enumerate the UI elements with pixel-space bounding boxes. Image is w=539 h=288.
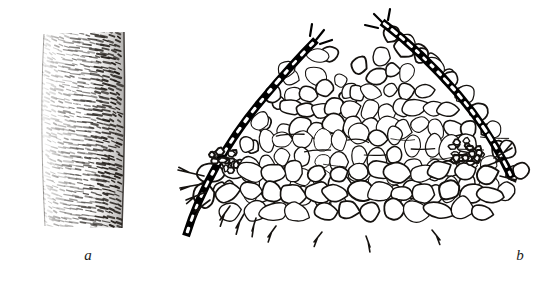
- vessel-thickening-dash: [90, 31, 95, 32]
- vessel-thickening-dash: [91, 228, 96, 229]
- tissue-cell: [404, 135, 420, 157]
- tissue-cell: [339, 201, 360, 218]
- bundle-cell: [466, 146, 473, 151]
- tissue-cell: [439, 180, 459, 199]
- bundle-cell: [474, 155, 480, 162]
- panel-a-label: a: [68, 247, 108, 264]
- vessel-thickening-dash: [101, 229, 108, 231]
- bundle-cell: [228, 151, 236, 157]
- vessel-thickening-dash: [73, 228, 77, 229]
- panel-b-label: b: [500, 247, 539, 264]
- tissue-cell: [384, 83, 398, 96]
- bundle-cell: [469, 151, 475, 157]
- vessel-thickening-dash: [43, 25, 46, 27]
- figure-panel-a: a: [0, 0, 180, 288]
- tissue-cell: [400, 63, 415, 82]
- vessel-thickening-dash: [40, 170, 43, 172]
- vessel-thickening-dash: [65, 27, 72, 28]
- tissue-cell: [349, 163, 368, 180]
- vessel-thickening-dash: [39, 113, 42, 115]
- tissue-cell: [387, 147, 402, 163]
- marginal-spine: [268, 226, 276, 242]
- leaf-cross-section-drawing: [170, 0, 539, 288]
- bundle-cell: [453, 155, 460, 162]
- bundle-cell: [218, 158, 228, 163]
- vessel-thickening-dash: [114, 229, 119, 231]
- tissue-cell: [299, 86, 317, 102]
- marginal-spine: [366, 236, 370, 252]
- vessel-thickening-dash: [39, 163, 43, 165]
- bundle-cell: [215, 148, 224, 155]
- vessel-thickening-dash: [37, 127, 42, 129]
- marginal-spine: [314, 232, 322, 247]
- bundle-cell: [466, 161, 475, 165]
- vessel-thickening-dash: [96, 30, 105, 31]
- vessel-thickening-dash: [69, 28, 78, 29]
- vessel-thickening-dash: [55, 26, 58, 28]
- tissue-cell: [366, 68, 388, 84]
- bundle-cell: [233, 161, 238, 168]
- vessel-thickening-dash: [38, 152, 41, 154]
- vessel-thickening-dash: [111, 229, 116, 231]
- vessel-thickening-dash: [86, 229, 90, 230]
- tissue-cell: [330, 167, 347, 182]
- tissue-cell: [386, 63, 401, 77]
- vessel-thickening-dash: [39, 95, 42, 97]
- tissue-cell: [415, 84, 435, 97]
- figure-plate: a b: [0, 0, 539, 288]
- bundle-cell: [209, 152, 215, 158]
- tissue-cell: [341, 101, 361, 119]
- tissue-cell: [472, 205, 494, 220]
- vessel-thickening-dash: [76, 30, 85, 31]
- tissue-cell: [411, 117, 429, 133]
- tissue-cell: [412, 184, 434, 203]
- vessel-thickening-dash: [43, 29, 47, 31]
- vessel-thickening-dash: [109, 31, 112, 33]
- cell-cross-wall: [411, 149, 435, 150]
- vessel-element-drawing: [0, 0, 180, 288]
- tissue-cell: [351, 57, 366, 75]
- tissue-cell: [292, 131, 312, 148]
- tissue-cell: [361, 100, 379, 120]
- figure-panel-b: b: [170, 0, 539, 288]
- bundle-cell: [448, 144, 456, 149]
- vessel-thickening-dash: [103, 30, 107, 32]
- vessel-thickening-dash: [39, 123, 42, 125]
- bundle-cell: [224, 165, 229, 172]
- vessel-thickening-dash: [39, 167, 41, 169]
- vessel-thickening-dash: [40, 175, 43, 177]
- tissue-cell: [513, 163, 529, 179]
- vessel-thickening-dash: [47, 26, 50, 28]
- tissue-cell: [285, 160, 303, 181]
- vessel-thickening-dash: [78, 228, 87, 229]
- vessel-thickening-dash: [83, 29, 91, 30]
- tissue-cell: [314, 128, 332, 151]
- tissue-cell: [316, 79, 334, 96]
- vessel-thickening-dash: [37, 131, 42, 133]
- bundle-cell: [462, 155, 469, 161]
- vessel-thickening-dash: [39, 145, 42, 147]
- tissue-cell: [373, 47, 390, 66]
- tissue-cell: [240, 137, 254, 153]
- tissue-cell: [399, 83, 415, 100]
- vessel-thickening-dash: [63, 32, 71, 33]
- vessel-thickening-dash: [95, 229, 102, 230]
- marginal-spine: [432, 230, 440, 245]
- vessel-thickening-dash: [61, 27, 67, 29]
- vessel-thickening-dash: [41, 224, 46, 226]
- vessel-thickening-dash: [53, 30, 56, 32]
- vessel-thickening-dash: [38, 156, 41, 158]
- tissue-cell: [360, 202, 380, 222]
- tissue-cell: [387, 126, 402, 145]
- tissue-cell: [437, 102, 460, 116]
- vessel-thickening-dash: [47, 30, 51, 32]
- cell-cross-wall: [364, 155, 386, 156]
- vessel-hatching: [37, 25, 130, 234]
